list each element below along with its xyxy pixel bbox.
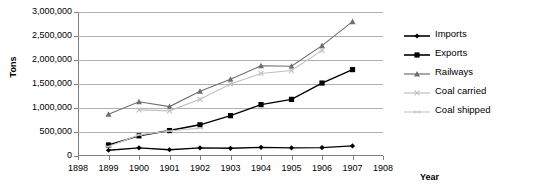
legend-marker-x-icon [404,85,430,97]
y-tick-label: 0 [2,150,72,160]
x-tick-label: 1908 [363,163,403,173]
x-tick [353,156,354,160]
data-point-exports [258,102,263,107]
x-tick [231,156,232,160]
legend-marker-square-icon [404,47,430,59]
data-point-railways [350,19,356,25]
legend-label: Railways [435,66,473,77]
y-axis-title: Tons [8,37,18,97]
x-tick [109,156,110,160]
data-point-coal-carried [198,97,203,102]
legend-item-coal-shipped[interactable]: Coal shipped [404,100,550,119]
legend-item-coal-carried[interactable]: Coal carried [404,81,550,100]
series-line-railways [109,22,353,115]
x-tick [200,156,201,160]
data-point-imports [228,146,233,151]
data-point-railways [106,111,112,117]
data-point-exports [228,113,233,118]
data-point-exports [319,80,324,85]
legend-item-railways[interactable]: Railways [404,62,550,81]
legend-item-imports[interactable]: Imports [404,24,550,43]
x-tick [170,156,171,160]
legend-marker-dash-icon [404,104,430,116]
legend-label: Exports [435,47,467,58]
data-point-railways [197,88,203,94]
chart-legend: ImportsExportsRailwaysCoal carriedCoal s… [404,24,550,119]
x-tick [322,156,323,160]
legend-item-exports[interactable]: Exports [404,43,550,62]
data-point-imports [258,145,263,150]
x-axis-title: Year [420,172,439,182]
y-tick-label: 1,500,000 [2,78,72,88]
series-lines [78,12,383,156]
data-point-exports [289,97,294,102]
x-tick [292,156,293,160]
data-point-exports [197,122,202,127]
legend-label: Coal carried [435,85,486,96]
y-tick-label: 2,000,000 [2,54,72,64]
x-tick [78,156,79,160]
legend-label: Imports [435,28,467,39]
data-point-exports [350,67,355,72]
data-point-coal-carried [320,48,325,53]
data-point-imports [106,148,111,153]
data-point-imports [197,145,202,150]
y-tick-label: 500,000 [2,126,72,136]
legend-marker-diamond-icon [404,28,430,40]
x-tick [261,156,262,160]
legend-label: Coal shipped [435,104,490,115]
data-point-imports [289,145,294,150]
x-tick [139,156,140,160]
data-point-imports [136,145,141,150]
y-tick-label: 3,000,000 [2,6,72,16]
plot-area [78,12,383,156]
y-tick-label: 1,000,000 [2,102,72,112]
x-tick [383,156,384,160]
chart-container: Tons 0500,0001,000,0001,500,0002,000,000… [0,0,553,194]
data-point-imports [350,143,355,148]
legend-marker-triangle-icon [404,66,430,78]
data-point-imports [319,145,324,150]
data-point-imports [167,147,172,152]
y-tick-label: 2,500,000 [2,30,72,40]
data-point-railways [228,76,234,82]
series-line-coal-shipped [109,128,201,146]
